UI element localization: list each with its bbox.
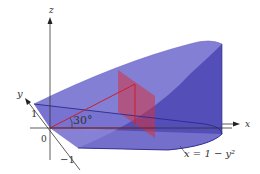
x-axis-arrow bbox=[233, 122, 240, 127]
y-axis-arrow bbox=[25, 98, 31, 105]
y-axis-label: y bbox=[16, 88, 23, 99]
curve-label: x = 1 − y² bbox=[184, 148, 235, 159]
tick-origin: 0 bbox=[41, 134, 47, 144]
x-axis-label: x bbox=[245, 119, 250, 129]
tick-y-neg1: −1 bbox=[60, 154, 75, 165]
tick-y-1: 1 bbox=[31, 108, 37, 119]
wedge-solid-diagram: z y x 1 0 −1 30° x = 1 − y² bbox=[0, 0, 260, 174]
z-axis-label: z bbox=[48, 5, 54, 15]
angle-label: 30° bbox=[73, 114, 93, 127]
z-axis-arrow bbox=[48, 17, 53, 24]
